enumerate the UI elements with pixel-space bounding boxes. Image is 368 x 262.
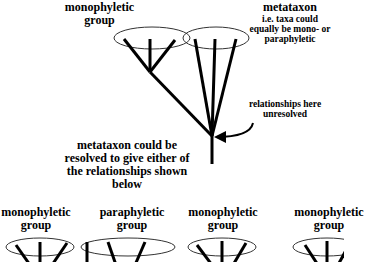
leaf-branch — [150, 40, 175, 72]
leaf-branch — [108, 242, 116, 262]
unresolved-arrow-icon — [216, 123, 253, 137]
bottom-tree-4 — [293, 238, 344, 262]
leaf-branch — [52, 243, 67, 262]
leaf-branch — [124, 39, 150, 72]
leaf-branch — [135, 242, 145, 262]
group-ellipse — [293, 238, 344, 256]
leaf-branch — [233, 243, 246, 262]
leaf-branch — [338, 243, 344, 262]
monophyletic-group-ellipse — [114, 27, 190, 49]
bottom-tree-1 — [6, 238, 74, 262]
leaf-branch — [305, 245, 318, 262]
top-tree — [124, 39, 236, 164]
bottom-tree-3 — [188, 238, 256, 262]
bottom-tree-2 — [81, 238, 175, 262]
group-ellipse — [81, 238, 175, 256]
